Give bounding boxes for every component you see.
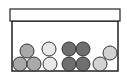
ball-dark-gray <box>62 42 76 56</box>
ball-light-gray <box>103 46 117 60</box>
ball-light <box>43 57 57 71</box>
ball-medium-gray <box>20 44 34 58</box>
ball-dark-gray <box>76 42 90 56</box>
ball-dark-gray <box>62 57 76 71</box>
ball-medium-gray <box>27 57 41 71</box>
ball-light-gray <box>93 57 107 71</box>
box-lid <box>10 9 120 21</box>
ball-light <box>42 42 56 56</box>
box-diagram <box>0 0 127 76</box>
ball-dark-gray <box>76 57 90 71</box>
ball-medium-gray <box>13 57 27 71</box>
